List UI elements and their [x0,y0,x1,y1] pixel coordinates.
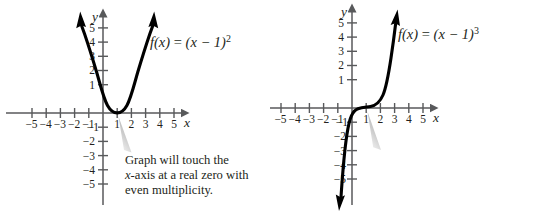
x-tick-label: −5 [274,113,286,125]
fn-exponent: 2 [226,33,231,44]
y-tick-label: 1 [89,79,95,91]
x-tick-label: −4 [289,113,301,125]
x-axis-label: x [183,115,190,130]
y-tick-label: −5 [83,178,95,190]
y-tick-label: −1 [336,116,348,128]
chart-panel-odd-multiplicity: −5 −4 −3 −2 −1 1 2 3 4 5 5 4 3 2 1 −1 −2… [270,0,539,213]
x-tick-label: 2 [129,118,135,130]
x-tick-label: 4 [157,118,163,130]
y-tick-label: 3 [338,45,344,57]
caption-even-multiplicity: Graph will touch the x-axis at a real ze… [125,153,248,199]
x-tick-label: −3 [303,113,315,125]
x-tick-label: −5 [25,118,37,130]
y-tick-label: −1 [87,121,99,133]
y-tick-label: −2 [83,135,95,147]
fn-equals: = [418,26,433,42]
caption-line: even multiplicity. [125,183,248,198]
fn-exponent: 3 [474,25,479,36]
fn-arg: (x) [402,26,418,43]
x-tick-label: −4 [40,118,52,130]
y-tick-label: 1 [338,74,344,86]
y-tick-label: −5 [334,173,346,185]
x-tick-label: 4 [406,113,412,125]
multiplicity-figure: −5 −4 −3 −2 −1 1 2 3 4 5 5 4 3 2 1 −1 −2… [0,0,539,213]
x-tick-label: −2 [68,118,80,130]
fn-body: (x − 1) [434,26,475,43]
curve-cubic [341,24,396,197]
y-tick-labels-even: 5 4 3 2 1 −1 −2 −3 −4 −5 [83,22,99,190]
caption-line-2-rest: -axis at a real zero with [131,168,249,182]
y-axis-label: y [339,4,347,19]
y-tick-label: 4 [338,31,344,43]
x-tick-label: −2 [317,113,329,125]
x-tick-label: 3 [392,113,398,125]
chart-svg-odd: −5 −4 −3 −2 −1 1 2 3 4 5 5 4 3 2 1 −1 −2… [270,0,539,213]
fn-equals: = [170,34,185,50]
caption-line-2: x-axis at a real zero with [125,168,248,183]
function-label-even: f(x) = (x − 1)2 [150,33,231,52]
x-tick-label: 3 [143,118,149,130]
function-label-odd: f(x) = (x − 1)3 [398,25,479,44]
x-tick-labels-even: −5 −4 −3 −2 −1 1 2 3 4 5 [25,118,177,130]
x-axis-label: x [432,110,439,125]
x-tick-label: 2 [378,113,384,125]
chart-panel-even-multiplicity: −5 −4 −3 −2 −1 1 2 3 4 5 5 4 3 2 1 −1 −2… [0,0,270,213]
fn-arg: (x) [154,34,170,51]
y-tick-label: −4 [83,164,95,176]
y-tick-label: −2 [334,130,346,142]
y-tick-label: 2 [338,59,344,71]
fn-body: (x − 1) [186,34,227,51]
x-tick-label: 5 [420,113,426,125]
caption-line: Graph will touch the [125,153,248,168]
x-tick-label: 5 [171,118,177,130]
x-tick-label: −3 [54,118,66,130]
y-tick-label: −3 [83,150,95,162]
y-axis-label: y [90,9,98,24]
y-tick-labels-odd: 5 4 3 2 1 −1 −2 −3 −4 −5 [334,17,348,185]
